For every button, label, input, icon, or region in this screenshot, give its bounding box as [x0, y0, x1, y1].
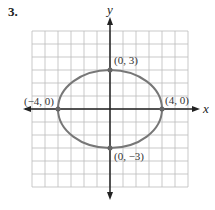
figure: 3. xy(0, 3)(4, 0)(−4, 0)(0, −3)	[0, 0, 215, 210]
vertex-point	[160, 107, 165, 112]
point-label: (−4, 0)	[24, 95, 54, 108]
vertex-point	[108, 68, 113, 73]
x-axis-arrow-right	[192, 106, 200, 112]
x-axis-label: x	[202, 101, 209, 116]
y-axis-label: y	[105, 2, 113, 17]
ellipse-plot: xy(0, 3)(4, 0)(−4, 0)(0, −3)	[0, 0, 215, 210]
point-label: (0, 3)	[114, 54, 138, 67]
point-label: (0, −3)	[114, 150, 144, 163]
vertex-point	[108, 146, 113, 151]
y-axis-arrow-up	[107, 17, 113, 25]
point-label: (4, 0)	[165, 94, 189, 107]
y-axis-arrow-down	[107, 192, 113, 200]
vertex-point	[56, 107, 61, 112]
